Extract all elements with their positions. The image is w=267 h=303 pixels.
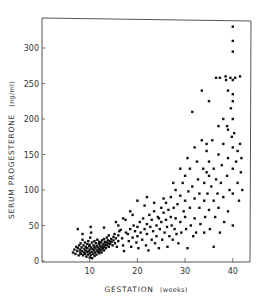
data-point xyxy=(112,236,114,238)
data-point xyxy=(185,228,187,230)
data-point xyxy=(146,233,148,235)
data-point xyxy=(170,216,172,218)
data-point xyxy=(94,247,96,249)
data-point xyxy=(89,248,91,250)
y-axis-unit: (ng/ml) xyxy=(8,81,16,107)
x-tick-label: 30 xyxy=(180,267,190,276)
data-point xyxy=(84,253,86,255)
data-point xyxy=(187,190,189,192)
data-point xyxy=(115,221,117,223)
data-point xyxy=(208,160,210,162)
data-point xyxy=(115,237,117,239)
data-point xyxy=(90,226,92,228)
data-point xyxy=(232,168,234,170)
x-tick-label: 20 xyxy=(132,267,142,276)
data-point xyxy=(89,256,91,258)
data-point xyxy=(179,168,181,170)
data-point xyxy=(203,200,205,202)
data-point xyxy=(232,100,234,102)
y-tick-label: 250 xyxy=(24,80,39,89)
data-point xyxy=(93,240,95,242)
data-point xyxy=(124,219,126,221)
data-point xyxy=(232,118,234,120)
data-point xyxy=(130,246,132,248)
data-point xyxy=(179,195,181,197)
data-point xyxy=(215,178,217,180)
x-axis-ticks: 10203040 xyxy=(85,258,238,276)
data-point xyxy=(196,160,198,162)
data-point xyxy=(90,251,92,253)
plot-border xyxy=(42,18,251,262)
data-point xyxy=(73,248,75,250)
data-point xyxy=(162,197,164,199)
data-point xyxy=(240,171,242,173)
data-point xyxy=(168,235,170,237)
data-point xyxy=(172,182,174,184)
data-point xyxy=(77,228,79,230)
data-point xyxy=(198,207,200,209)
data-point xyxy=(226,125,228,127)
data-point xyxy=(122,217,124,219)
scatter-chart: 050100150200250300 10203040 GESTATION (w… xyxy=(0,0,267,303)
data-point xyxy=(175,233,177,235)
data-point xyxy=(171,224,173,226)
data-point xyxy=(203,231,205,233)
data-point xyxy=(232,26,234,28)
data-point xyxy=(229,77,231,79)
data-point xyxy=(224,75,226,77)
data-point xyxy=(162,212,164,214)
data-point xyxy=(155,235,157,237)
data-point xyxy=(230,107,232,109)
data-point xyxy=(96,239,98,241)
data-point xyxy=(172,239,174,241)
data-point xyxy=(93,249,95,251)
y-tick-label: 50 xyxy=(29,222,39,231)
data-point xyxy=(99,244,101,246)
data-point xyxy=(227,157,229,159)
data-point xyxy=(210,185,212,187)
data-point xyxy=(197,178,199,180)
data-point xyxy=(120,229,122,231)
data-point xyxy=(74,253,76,255)
data-point xyxy=(95,253,97,255)
data-point xyxy=(86,243,88,245)
data-point xyxy=(105,247,107,249)
data-point xyxy=(165,219,167,221)
data-point xyxy=(94,251,96,253)
data-point xyxy=(195,231,197,233)
data-point xyxy=(186,157,188,159)
data-point xyxy=(137,247,139,249)
y-axis-title: SERUM PROGESTERONE (ng/ml) xyxy=(7,81,16,219)
data-point xyxy=(240,157,242,159)
y-tick-label: 300 xyxy=(24,44,39,53)
data-point xyxy=(215,77,217,79)
data-point xyxy=(198,192,200,194)
data-point xyxy=(233,132,235,134)
data-point xyxy=(211,139,213,141)
data-point xyxy=(222,196,224,198)
data-point xyxy=(183,210,185,212)
data-point xyxy=(223,221,225,223)
data-point xyxy=(86,247,88,249)
data-point xyxy=(98,252,100,254)
data-point xyxy=(165,202,167,204)
data-point xyxy=(236,182,238,184)
data-point xyxy=(161,239,163,241)
data-point xyxy=(121,237,123,239)
data-point xyxy=(110,238,112,240)
data-point xyxy=(109,243,111,245)
data-point xyxy=(217,153,219,155)
data-point xyxy=(136,226,138,228)
data-point xyxy=(179,221,181,223)
data-point xyxy=(166,226,168,228)
data-point xyxy=(186,247,188,249)
data-point xyxy=(129,210,131,212)
data-point xyxy=(232,79,234,81)
data-point xyxy=(90,254,92,256)
data-point xyxy=(153,210,155,212)
data-point xyxy=(100,241,102,243)
data-point xyxy=(81,239,83,241)
data-point xyxy=(202,168,204,170)
data-point xyxy=(160,221,162,223)
data-point xyxy=(239,75,241,77)
